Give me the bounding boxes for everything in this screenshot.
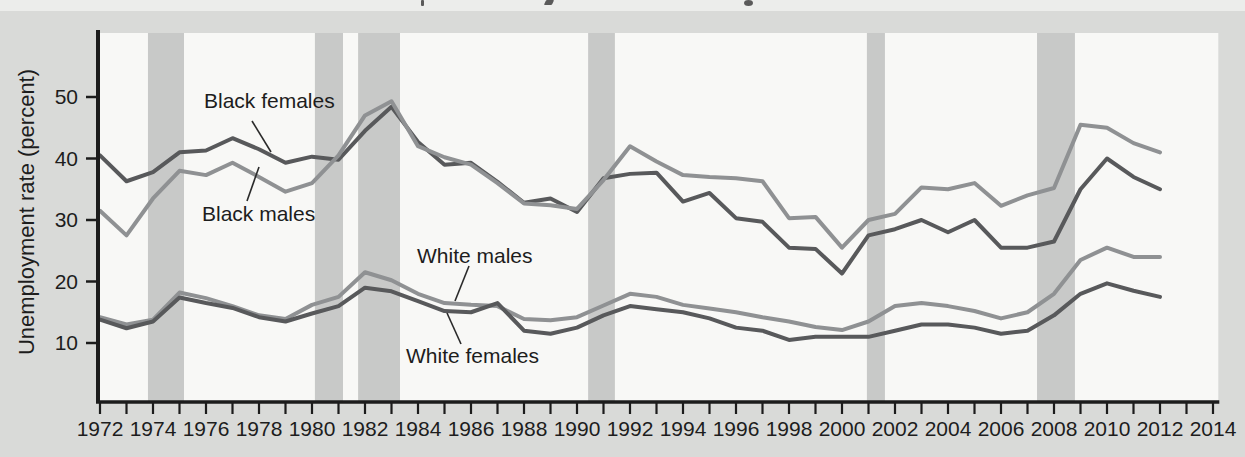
x-tick-label: 1994 <box>660 417 707 440</box>
x-tick-label: 1984 <box>395 417 442 440</box>
figure-unemployment-by-race-gender: 1020304050197219741976197819801982198419… <box>0 0 1245 457</box>
recession-band <box>1037 33 1075 403</box>
y-axis-title: Unemployment rate (percent) <box>14 69 40 355</box>
x-tick-label: 2004 <box>925 417 972 440</box>
recession-band <box>358 33 400 403</box>
x-tick-label: 2000 <box>819 417 866 440</box>
x-tick-label: 2010 <box>1084 417 1131 440</box>
x-tick-label: 2008 <box>1031 417 1078 440</box>
x-tick-label: 1992 <box>607 417 654 440</box>
x-tick-label: 1974 <box>130 417 177 440</box>
x-tick-label: 1982 <box>342 417 389 440</box>
x-tick-label: 1980 <box>289 417 336 440</box>
x-tick-label: 1990 <box>554 417 601 440</box>
x-tick-label: 2006 <box>978 417 1025 440</box>
x-tick-label: 2012 <box>1137 417 1184 440</box>
x-tick-label: 2002 <box>872 417 919 440</box>
x-tick-label: 1986 <box>448 417 495 440</box>
y-tick-label: 30 <box>55 208 78 231</box>
unemployment-line-chart: 1020304050197219741976197819801982198419… <box>0 0 1245 457</box>
y-tick-label: 20 <box>55 270 78 293</box>
x-tick-label: 1996 <box>713 417 760 440</box>
recession-band <box>148 33 184 403</box>
series-label-white-males: White males <box>417 244 533 268</box>
y-tick-label: 50 <box>55 85 78 108</box>
x-tick-label: 1972 <box>77 417 124 440</box>
x-tick-label: 1978 <box>236 417 283 440</box>
x-tick-label: 1988 <box>501 417 548 440</box>
x-tick-label: 1998 <box>766 417 813 440</box>
series-label-black-females: Black females <box>204 89 335 113</box>
recession-band <box>588 33 615 403</box>
y-tick-label: 40 <box>55 147 78 170</box>
x-tick-label: 2014 <box>1190 417 1237 440</box>
y-tick-label: 10 <box>55 331 78 354</box>
series-label-black-males: Black males <box>202 202 315 226</box>
series-label-white-females: White females <box>406 344 539 368</box>
x-tick-label: 1976 <box>183 417 230 440</box>
